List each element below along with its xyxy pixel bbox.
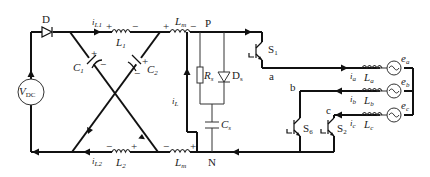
ds-label: Ds bbox=[232, 70, 243, 83]
lm-top-plus: + bbox=[163, 21, 169, 32]
il-label: iL bbox=[172, 97, 178, 108]
il1-label: iL1 bbox=[92, 18, 102, 29]
lm-bottom-label: Lm bbox=[175, 157, 186, 170]
eb-label: eb bbox=[401, 76, 409, 89]
node-n: N bbox=[208, 157, 216, 168]
rs-label: Rs bbox=[204, 70, 213, 83]
lb-label: Lb bbox=[364, 95, 374, 108]
lm-top-label: Lm bbox=[175, 16, 186, 29]
ib-label: ib bbox=[350, 95, 356, 106]
c1-label: C1 bbox=[73, 62, 84, 75]
node-b: b bbox=[290, 82, 296, 93]
l2-minus: − bbox=[106, 141, 112, 152]
cs-label: Cs bbox=[221, 119, 231, 132]
ec-label: ec bbox=[401, 100, 409, 113]
s6-label: S6 bbox=[303, 123, 313, 136]
lm-bottom-minus: − bbox=[163, 141, 169, 152]
l1-minus: − bbox=[132, 21, 138, 32]
l2-label: L2 bbox=[116, 157, 126, 170]
lm-top-minus: − bbox=[190, 21, 196, 32]
diode-d-label: D bbox=[42, 14, 50, 25]
vdc-label: VDC bbox=[19, 86, 35, 99]
circuit-diagram: D VDC iL1 + − L1 + Lm − P + − C1 + − C2 … bbox=[0, 0, 430, 177]
l2-plus: + bbox=[131, 141, 137, 152]
s1-label: S1 bbox=[268, 44, 278, 57]
ia-label: ia bbox=[350, 72, 356, 83]
c1-plus: + bbox=[91, 48, 97, 59]
node-p: P bbox=[205, 18, 211, 29]
ic-label: ic bbox=[350, 119, 356, 130]
c1-minus: − bbox=[100, 59, 106, 70]
lm-bottom-plus: + bbox=[190, 141, 196, 152]
c2-label: C2 bbox=[147, 64, 158, 77]
node-a: a bbox=[269, 71, 274, 82]
s2-label: S2 bbox=[337, 123, 347, 136]
ea-label: ea bbox=[401, 53, 409, 66]
lc-label: Lc bbox=[364, 119, 373, 132]
c2-minus: − bbox=[134, 68, 140, 79]
l1-plus: + bbox=[106, 21, 112, 32]
la-label: La bbox=[364, 72, 374, 85]
node-c: c bbox=[326, 105, 331, 116]
circuit-wires bbox=[0, 0, 430, 177]
il2-label: iL2 bbox=[92, 157, 102, 168]
l1-label: L1 bbox=[116, 37, 126, 50]
